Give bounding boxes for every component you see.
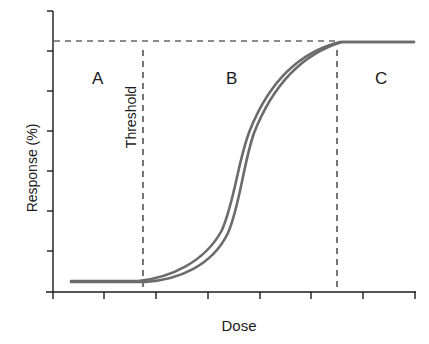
region-a-label: A bbox=[92, 69, 103, 89]
response-curves bbox=[71, 42, 414, 282]
region-c-label: C bbox=[375, 69, 387, 89]
y-axis bbox=[47, 11, 53, 292]
x-axis bbox=[46, 292, 416, 299]
region-b-label: B bbox=[226, 69, 237, 89]
dose-response-chart bbox=[0, 0, 429, 344]
curve-inner bbox=[71, 42, 414, 282]
threshold-label: Threshold bbox=[123, 86, 139, 148]
curve-outer bbox=[71, 42, 414, 281]
x-axis-label: Dose bbox=[221, 317, 256, 334]
y-axis-label: Response (%) bbox=[24, 124, 40, 213]
